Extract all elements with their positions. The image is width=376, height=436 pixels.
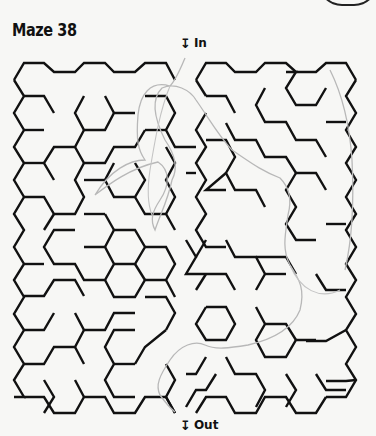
maze-wall bbox=[14, 80, 24, 397]
maze-wall bbox=[75, 96, 135, 130]
maze-wall bbox=[196, 240, 206, 257]
maze-wall bbox=[75, 130, 145, 163]
maze-wall bbox=[166, 280, 175, 297]
exit-marker: ↧ Out bbox=[180, 418, 218, 432]
exit-label: Out bbox=[194, 418, 218, 432]
maze-wall bbox=[24, 280, 84, 296]
down-arrow-icon: ↧ bbox=[180, 419, 191, 432]
maze-wall bbox=[24, 313, 54, 330]
maze-grid[interactable] bbox=[0, 0, 376, 436]
maze-wall bbox=[196, 63, 356, 80]
solution-path bbox=[95, 58, 353, 412]
maze-wall bbox=[84, 397, 175, 413]
maze-wall bbox=[296, 173, 326, 190]
maze-wall bbox=[24, 96, 54, 113]
maze-wall bbox=[105, 96, 114, 113]
maze-wall bbox=[286, 173, 316, 240]
maze-wall bbox=[145, 297, 175, 330]
maze-wall bbox=[196, 113, 226, 247]
maze-wall bbox=[226, 123, 296, 173]
maze-wall bbox=[75, 313, 135, 330]
maze-wall bbox=[196, 274, 206, 290]
maze-wall bbox=[326, 80, 356, 397]
maze-wall bbox=[145, 96, 196, 147]
maze-wall bbox=[135, 264, 145, 280]
maze-wall bbox=[14, 63, 175, 80]
maze-wall bbox=[135, 330, 166, 364]
maze-wall bbox=[75, 380, 84, 397]
maze-wall bbox=[44, 230, 114, 280]
maze-wall bbox=[316, 274, 346, 290]
maze-wall bbox=[24, 397, 84, 413]
maze-wall bbox=[44, 214, 54, 230]
maze-wall bbox=[196, 80, 206, 96]
maze-wall bbox=[286, 374, 296, 407]
maze-wall bbox=[24, 163, 84, 214]
maze-wall bbox=[256, 307, 316, 357]
maze-wall bbox=[135, 197, 175, 230]
maze-wall bbox=[186, 357, 206, 374]
maze-wall bbox=[206, 173, 226, 190]
maze-wall bbox=[186, 374, 216, 407]
maze-wall bbox=[196, 307, 235, 340]
maze-wall bbox=[105, 214, 114, 230]
maze-wall bbox=[226, 357, 265, 407]
maze-wall bbox=[75, 347, 84, 364]
maze-wall bbox=[286, 72, 326, 105]
maze-wall bbox=[166, 364, 175, 413]
maze-wall bbox=[44, 380, 54, 413]
maze-wall bbox=[206, 96, 235, 113]
maze-wall bbox=[206, 140, 265, 207]
maze-wall bbox=[326, 380, 356, 381]
